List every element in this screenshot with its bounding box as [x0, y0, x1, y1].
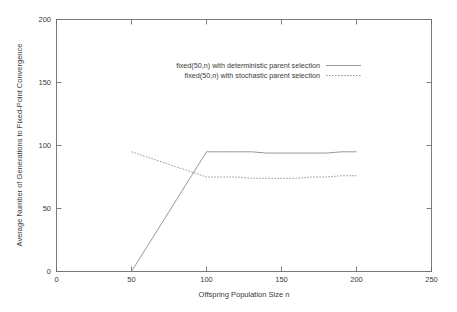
chart-background: [0, 0, 457, 312]
x-axis-title: Offspring Population Size n: [199, 290, 290, 299]
y-axis-title: Average Number of Generations to Fixed-P…: [15, 44, 24, 247]
legend-label-stochastic: fixed(50,n) with stochastic parent selec…: [185, 71, 320, 80]
x-tick-label: 200: [350, 275, 363, 284]
y-tick-label: 100: [38, 141, 51, 150]
y-tick-label: 150: [38, 78, 51, 87]
x-tick-label: 50: [127, 275, 135, 284]
x-tick-label: 100: [200, 275, 213, 284]
x-tick-label: 0: [54, 275, 58, 284]
x-tick-label: 150: [275, 275, 288, 284]
x-tick-label: 250: [425, 275, 438, 284]
legend-label-deterministic: fixed(50,n) with deterministic parent se…: [176, 61, 320, 70]
y-tick-label: 50: [43, 204, 51, 213]
chart-figure: 0 50 100 150 200 250 0 50 100 150 200 Of…: [0, 0, 457, 312]
y-tick-label: 0: [47, 267, 51, 276]
y-tick-label: 200: [38, 15, 51, 24]
